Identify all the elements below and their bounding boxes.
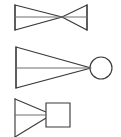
- wedge-lower-edge: [15, 118, 46, 137]
- cone-tip-circle: [90, 57, 112, 79]
- figure-1-bowtie-nozzle: [15, 5, 87, 30]
- line-drawing-canvas: [0, 0, 121, 137]
- figure-sheet: [0, 0, 121, 137]
- figure-2-triangle-with-circle: [16, 47, 112, 88]
- wedge-end-square: [46, 103, 70, 127]
- figure-3-triangle-with-square: [15, 99, 70, 137]
- wedge-upper-edge: [15, 99, 46, 112]
